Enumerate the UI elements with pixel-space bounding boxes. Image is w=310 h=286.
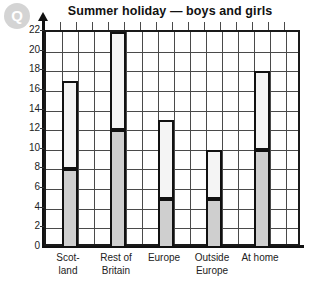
y-axis-tick-label: 6 xyxy=(8,181,40,192)
bar xyxy=(206,150,222,248)
gridline-vertical xyxy=(78,32,79,244)
top-tick-mark xyxy=(220,22,221,30)
y-axis-tick-labels: 0246810121416182022 xyxy=(4,0,40,286)
x-axis-category-labels: Scot-landRest ofBritainEuropeOutsideEuro… xyxy=(44,250,300,286)
plot-area xyxy=(44,30,300,246)
x-axis-label-line: Europe xyxy=(196,265,228,276)
gridline-vertical xyxy=(142,32,143,244)
bar xyxy=(110,32,126,248)
top-tick-mark xyxy=(204,22,205,30)
y-axis-tick-label: 20 xyxy=(8,44,40,55)
x-axis-label-line: Scot- xyxy=(56,252,79,263)
top-tick-mark xyxy=(236,22,237,30)
y-axis-tick-label: 4 xyxy=(8,201,40,212)
chart-container: Q Summer holiday — boys and girls 024681… xyxy=(0,0,310,286)
bar-segment-lower xyxy=(206,199,222,248)
gridline-vertical xyxy=(238,32,239,244)
top-tick-mark xyxy=(156,22,157,30)
x-axis-label-line: At home xyxy=(241,252,278,263)
top-tick-mark xyxy=(76,22,77,30)
gridline-vertical xyxy=(222,32,223,244)
top-tick-mark xyxy=(188,22,189,30)
bar-segment-upper xyxy=(254,71,270,150)
y-axis-tick-label: 14 xyxy=(8,103,40,114)
y-axis-tick-label: 16 xyxy=(8,83,40,94)
gridline-vertical xyxy=(286,32,287,244)
gridline-vertical xyxy=(94,32,95,244)
x-axis-label-line: land xyxy=(59,265,78,276)
x-axis-label-line: Outside xyxy=(195,252,229,263)
x-axis-category-label: At home xyxy=(226,252,294,265)
y-axis-tick-label: 22 xyxy=(8,24,40,35)
top-tick-mark xyxy=(172,22,173,30)
gridline-vertical xyxy=(270,32,271,244)
top-tick-mark xyxy=(92,22,93,30)
bar xyxy=(62,81,78,248)
bar-segment-upper xyxy=(110,32,126,130)
top-tick-mark xyxy=(108,22,109,30)
bar-segment-lower xyxy=(158,199,174,248)
y-axis-tick-label: 0 xyxy=(8,240,40,251)
bar-segment-upper xyxy=(158,120,174,199)
y-axis-tick-label: 12 xyxy=(8,122,40,133)
y-axis-tick-label: 10 xyxy=(8,142,40,153)
x-axis-label-line: Rest of xyxy=(100,252,132,263)
y-axis-tick-label: 18 xyxy=(8,63,40,74)
top-tick-mark xyxy=(60,22,61,30)
top-tick-mark xyxy=(284,22,285,30)
bar-segment-lower xyxy=(62,169,78,248)
bar xyxy=(254,71,270,248)
gridline-vertical xyxy=(126,32,127,244)
gridline-horizontal xyxy=(46,52,298,53)
top-tick-mark xyxy=(268,22,269,30)
x-axis-label-line: Britain xyxy=(102,265,130,276)
bar-segment-lower xyxy=(254,150,270,248)
chart-title: Summer holiday — boys and girls xyxy=(36,4,304,18)
y-axis-tick-label: 8 xyxy=(8,161,40,172)
bar-segment-upper xyxy=(62,81,78,169)
gridline-vertical xyxy=(174,32,175,244)
gridline-vertical xyxy=(190,32,191,244)
top-tick-mark xyxy=(252,22,253,30)
y-axis-tick-label: 2 xyxy=(8,220,40,231)
x-axis-label-line: Europe xyxy=(148,252,180,263)
bar-segment-lower xyxy=(110,130,126,248)
top-tick-mark xyxy=(124,22,125,30)
bar xyxy=(158,120,174,248)
bar-segment-upper xyxy=(206,150,222,199)
top-tick-mark xyxy=(140,22,141,30)
